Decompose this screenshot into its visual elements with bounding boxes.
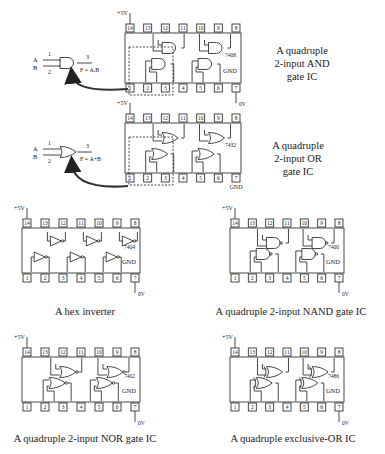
pin-top: 12 (161, 24, 169, 32)
and-gate-icon (162, 43, 176, 54)
pin-bottom: 1 (231, 274, 239, 282)
vcc-label: +5V (117, 100, 128, 106)
pin-top: 9 (318, 348, 326, 356)
pin-top: 12 (161, 114, 169, 122)
pin-number: 6 (116, 404, 119, 410)
vcc-label: +5V (222, 205, 233, 211)
pin-number: 4 (182, 85, 185, 91)
pin-top: 14 (231, 219, 239, 227)
pin-bottom: 4 (179, 174, 187, 182)
pin-top: 9 (214, 24, 222, 32)
pin-top: 9 (113, 348, 121, 356)
pin-top: 13 (248, 219, 256, 227)
pin-top: 10 (197, 114, 205, 122)
pin-top: 13 (41, 348, 49, 356)
arrow-icon (72, 75, 128, 90)
not-gate-icon (50, 236, 63, 246)
pin-bottom: 6 (113, 274, 121, 282)
pin-number: 2 (44, 275, 47, 281)
ic-body (22, 357, 140, 402)
pin-number: 2 (146, 175, 149, 181)
pin-number: 1 (26, 404, 29, 410)
and-gate-icon (209, 43, 223, 54)
input-b-label: B (33, 153, 38, 160)
pin-bottom: 2 (41, 403, 49, 411)
not-gate-icon (106, 252, 119, 262)
arrow-icon (72, 164, 128, 187)
pin-top: 11 (179, 114, 187, 122)
pin-bottom: 2 (248, 274, 256, 282)
pin-bottom: 5 (95, 274, 103, 282)
pin-number: 8 (134, 220, 137, 226)
pin-bottom: 5 (300, 403, 308, 411)
input-a-label: A (33, 145, 38, 152)
input-a-label: A (33, 56, 38, 63)
pin-number: 9 (217, 25, 220, 31)
pin-bottom: 3 (59, 403, 67, 411)
vcc-label: +5V (117, 10, 128, 16)
pin-number: 3 (62, 275, 65, 281)
caption-line: gate IC (258, 165, 338, 178)
pin-top: 9 (318, 219, 326, 227)
pin-top: 14 (23, 348, 31, 356)
ic-nor: 1411321231141059687+5V0V7402GND (14, 334, 145, 426)
pin-number: 14 (232, 220, 238, 226)
ic-body (230, 228, 344, 273)
pin-number: 3 (268, 275, 271, 281)
pin-bottom: 7 (232, 84, 240, 92)
gnd-label: GND (326, 258, 340, 265)
pin-top: 9 (113, 219, 121, 227)
and-gate-icon (152, 59, 166, 70)
nand-gate-icon (256, 249, 272, 260)
pin-top: 11 (283, 219, 291, 227)
pin-bottom: 1 (231, 403, 239, 411)
pin-bottom: 5 (300, 274, 308, 282)
pin-label: 3 (86, 54, 89, 60)
not-gate-icon (86, 236, 99, 246)
pin-top: 10 (197, 24, 205, 32)
pin-top: 8 (335, 219, 343, 227)
pin-number: 10 (198, 25, 204, 31)
pin-top: 9 (214, 114, 222, 122)
pin-number: 13 (42, 349, 48, 355)
nand-gate-icon (302, 249, 318, 260)
xor-gate-icon (299, 378, 318, 389)
pin-bottom: 3 (266, 274, 274, 282)
pin-bottom: 7 (335, 274, 343, 282)
pin-top: 11 (179, 24, 187, 32)
pin-number: 11 (284, 220, 290, 226)
pin-number: 1 (234, 404, 237, 410)
pin-number: 11 (78, 220, 84, 226)
or-gate-icon (162, 133, 178, 144)
gnd-label: GND (223, 67, 237, 74)
nor-gate-icon (49, 378, 67, 389)
pin-bottom: 7 (131, 274, 139, 282)
chip-number: 7404 (124, 244, 135, 250)
pin-bottom: 6 (318, 403, 326, 411)
chip-number: 7408 (225, 52, 236, 58)
pin-bottom: 3 (161, 174, 169, 182)
caption-line: A quadruple (262, 44, 342, 57)
pin-number: 11 (180, 115, 186, 121)
pin-number: 5 (98, 275, 101, 281)
ic-not: 1411321231141059687+5V0V7404GND (14, 205, 145, 297)
caption-nand: A quadruple 2-input NAND gate IC (206, 305, 376, 318)
pin-number: 11 (78, 349, 84, 355)
pin-top: 13 (144, 24, 152, 32)
chip-number: 7400 (328, 244, 339, 250)
pin-top: 11 (77, 348, 85, 356)
pin-number: 14 (24, 349, 30, 355)
pin-top: 8 (335, 348, 343, 356)
pin-number: 10 (302, 349, 308, 355)
pin-top: 10 (95, 348, 103, 356)
caption-or: A quadruple 2-input OR gate IC (258, 139, 338, 178)
pin-bottom: 1 (23, 403, 31, 411)
pin-number: 10 (198, 115, 204, 121)
pin-number: 5 (98, 404, 101, 410)
pin-top: 11 (77, 219, 85, 227)
pin-number: 7 (134, 404, 137, 410)
caption-xor: A quadruple exclusive-OR IC (218, 432, 368, 445)
pin-bottom: 1 (126, 174, 134, 182)
pin-bottom: 5 (95, 403, 103, 411)
pin-number: 3 (268, 404, 271, 410)
